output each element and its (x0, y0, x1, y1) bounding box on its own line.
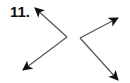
angles-layer (23, 8, 118, 80)
ray-lower-right-arrow (80, 38, 118, 80)
left-angle (23, 8, 67, 70)
ray-lower-left-arrow (23, 37, 67, 70)
right-angle (80, 18, 118, 80)
ray-upper-right-arrow (80, 18, 118, 38)
angle-diagram (0, 0, 130, 83)
ray-upper-left-arrow (35, 8, 67, 37)
